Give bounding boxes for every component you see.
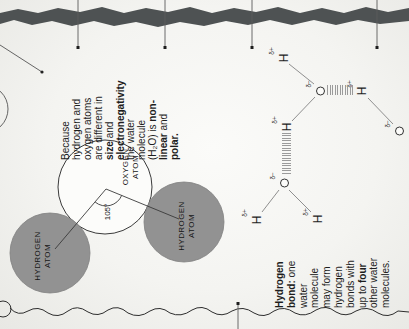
hydrogen-symbol: Hδ+ xyxy=(308,215,326,224)
caption-text: one xyxy=(286,261,297,280)
oxygen-circle-glyph xyxy=(316,87,325,96)
caption-text: (H₂O) is xyxy=(147,122,158,160)
annotation-pin-dot xyxy=(251,46,254,49)
covalent-bond xyxy=(262,190,279,212)
caption-text: hydrogen and xyxy=(71,99,82,160)
partial-charge-label: δ− xyxy=(384,120,391,127)
caption-text: polar. xyxy=(169,133,180,160)
caption-text: molecule xyxy=(309,268,320,308)
partial-charge-label: δ− xyxy=(269,172,276,179)
caption-line: bond: one xyxy=(286,236,298,308)
covalent-bond xyxy=(292,97,315,121)
hydrogen-letter: H xyxy=(311,215,325,224)
caption-line: up to four xyxy=(357,236,369,308)
caption-text: four xyxy=(357,264,368,283)
caption-text: molecule xyxy=(136,120,147,160)
caption-text: Hydrogen xyxy=(274,261,285,308)
oxygen-symbol: δ− xyxy=(275,179,293,188)
caption-text: Because xyxy=(60,121,71,160)
caption-text: bonds with xyxy=(345,260,356,308)
caption-text: and xyxy=(104,122,115,141)
caption-text: may form xyxy=(321,266,332,308)
partial-charge-label: δ− xyxy=(305,80,312,87)
bond-angle-label: 105° xyxy=(103,204,112,221)
hydrogen-letter: H xyxy=(250,216,264,225)
caption-text: and xyxy=(158,114,169,133)
caption-text: oxygen atoms xyxy=(82,98,93,160)
caption-text: are different in xyxy=(93,96,104,160)
caption-text: hydrogen xyxy=(333,266,344,308)
hydrogen-letter: H xyxy=(280,123,294,132)
book-page-photo: OXYGEN ATOM HYDROGEN ATOM HYDROGEN ATOM … xyxy=(0,0,409,329)
caption-text: molecules. xyxy=(380,260,391,308)
caption-text: up to xyxy=(357,283,368,308)
caption-line: water xyxy=(298,236,310,308)
caption-line: hydrogen xyxy=(333,236,345,308)
hydrogen-letter: H xyxy=(277,54,291,63)
torn-paper-edge xyxy=(0,7,409,27)
caption-hydrogen-bond: Hydrogenbond: onewatermoleculemay formhy… xyxy=(274,236,392,308)
oxygen-circle-glyph xyxy=(395,127,404,136)
partial-charge-label: δ+ xyxy=(241,209,248,216)
wavy-rule xyxy=(10,307,409,315)
annotation-pin-dot xyxy=(237,302,240,305)
wavy-rule-loop xyxy=(0,301,11,317)
caption-line: bonds with xyxy=(345,236,357,308)
partial-charge-label: δ+ xyxy=(302,208,309,215)
partial-charge-label: δ+ xyxy=(271,116,278,123)
label-line: HYDROGEN xyxy=(177,201,187,250)
caption-line: other water xyxy=(368,236,380,308)
caption-text: linear xyxy=(158,133,169,160)
caption-line: polar. xyxy=(170,48,181,160)
label-line: HYDROGEN xyxy=(33,231,43,280)
hydrogen-symbol: Hδ+ xyxy=(277,123,295,132)
caption-line: molecule xyxy=(309,236,321,308)
leader-line xyxy=(0,45,42,72)
caption-polarity: Becausehydrogen andoxygen atomsare diffe… xyxy=(61,48,181,160)
hydrogen-symbol: Hδ+ xyxy=(352,87,370,96)
caption-line: may form xyxy=(321,236,333,308)
oxygen-circle-glyph xyxy=(280,179,289,188)
caption-line: Hydrogen xyxy=(274,236,286,308)
caption-line: molecules. xyxy=(380,236,392,308)
partial-charge-label: δ+ xyxy=(268,47,275,54)
caption-text: size xyxy=(104,141,115,160)
caption-text: electronegativity xyxy=(115,81,126,160)
hydrogen-letter: H xyxy=(355,87,369,96)
hydrogen-symbol: Hδ+ xyxy=(247,216,265,225)
caption-text: other water xyxy=(368,258,379,308)
hydrogen-bond-hatch xyxy=(282,133,291,174)
hydrogen-atom-label-right: HYDROGEN ATOM xyxy=(177,201,196,250)
caption-text: water xyxy=(298,284,309,308)
rotated-page-content: OXYGEN ATOM HYDROGEN ATOM HYDROGEN ATOM … xyxy=(0,0,409,329)
hydrogen-bond-hatch xyxy=(327,85,354,95)
caption-text: bond: xyxy=(286,280,297,308)
label-line: ATOM xyxy=(186,201,196,250)
caption-text: the water xyxy=(125,119,136,160)
hydrogen-atom-label-left: HYDROGEN ATOM xyxy=(33,231,52,280)
hydrogen-symbol: Hδ+ xyxy=(274,54,292,63)
leader-line-dot xyxy=(40,70,43,73)
oxygen-symbol: δ− xyxy=(390,127,408,136)
caption-text: non- xyxy=(147,100,158,122)
annotation-pin-dot xyxy=(376,46,379,49)
label-line: ATOM xyxy=(42,231,52,280)
arc-fragment xyxy=(0,85,8,133)
